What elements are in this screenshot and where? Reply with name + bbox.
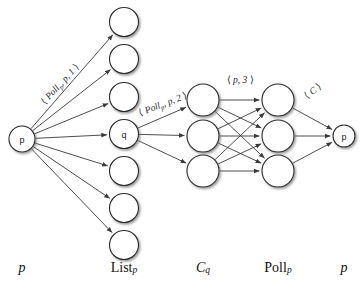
graph-svg: pqp ⟨ Pollp, p, 1 ⟩⟨ Pollp, p, 2 ⟩⟨ p, 3… xyxy=(0,0,363,286)
column-label-col-list-p: Listp xyxy=(111,260,138,276)
node-list-q[interactable]: q xyxy=(110,120,139,149)
edge-label-poll-p-2: ⟨ Pollp, p, 2 ⟩ xyxy=(137,90,189,118)
nodes-layer: pqp xyxy=(9,8,355,260)
node-cq-2[interactable] xyxy=(187,120,219,152)
edge-p-to-list-7 xyxy=(31,149,112,233)
edge-q-to-cq-2 xyxy=(139,134,184,135)
edge-q-to-cq-3 xyxy=(138,140,187,163)
edge-p-to-list-1 xyxy=(31,35,113,129)
node-list-7-circle[interactable] xyxy=(110,231,139,260)
diagram-canvas: pqp ⟨ Pollp, p, 1 ⟩⟨ Pollp, p, 2 ⟩⟨ p, 3… xyxy=(0,0,363,286)
column-label-col-p-left: p xyxy=(18,260,26,275)
edge-label-p-3: ⟨ p, 3 ⟩ xyxy=(227,75,254,85)
node-cq-2-circle[interactable] xyxy=(187,120,219,152)
column-label-col-p-right: p xyxy=(340,260,348,275)
node-pollp-3[interactable] xyxy=(262,155,294,187)
node-pollp-3-circle[interactable] xyxy=(262,155,294,187)
node-list-2-circle[interactable] xyxy=(110,45,139,74)
node-p-sink[interactable]: p xyxy=(333,125,355,147)
node-list-6[interactable] xyxy=(110,194,139,223)
edge-cq1-to-pollp2 xyxy=(218,107,261,128)
node-list-2[interactable] xyxy=(110,45,139,74)
node-cq-1[interactable] xyxy=(187,84,219,116)
edge-cq2-to-pollp3 xyxy=(218,143,261,163)
node-cq-3-circle[interactable] xyxy=(187,155,219,187)
node-p-source[interactable]: p xyxy=(9,126,35,152)
node-pollp-1-circle[interactable] xyxy=(262,84,294,116)
edge-label-c: ⟨ C ⟩ xyxy=(302,81,323,100)
edge-pollp1-to-p xyxy=(292,108,332,130)
node-cq-1-circle[interactable] xyxy=(187,84,219,116)
edge-cq2-to-pollp1 xyxy=(218,108,261,129)
node-list-3-circle[interactable] xyxy=(110,83,139,112)
edge-label-poll-p-1: ⟨ Pollp, p, 1 ⟩ xyxy=(39,62,82,107)
edge-pollp3-to-p xyxy=(293,142,332,163)
node-pollp-2-circle[interactable] xyxy=(262,120,294,152)
edge-p-to-list-5 xyxy=(35,143,108,166)
node-pollp-1[interactable] xyxy=(262,84,294,116)
node-list-1-circle[interactable] xyxy=(110,8,139,37)
node-pollp-2[interactable] xyxy=(262,120,294,152)
node-list-q-label: q xyxy=(121,130,126,140)
node-p-sink-label: p xyxy=(341,132,346,142)
column-labels-layer: pListpCqPollpp xyxy=(18,260,348,276)
node-list-6-circle[interactable] xyxy=(110,194,139,223)
edge-p-to-list-3 xyxy=(34,104,108,134)
node-p-source-label: p xyxy=(19,135,24,145)
node-list-5-circle[interactable] xyxy=(110,157,139,186)
node-list-5[interactable] xyxy=(110,157,139,186)
edge-cq3-to-pollp2 xyxy=(218,144,261,164)
edge-p-to-list-q xyxy=(35,135,106,139)
node-list-1[interactable] xyxy=(110,8,139,37)
node-cq-3[interactable] xyxy=(187,155,219,187)
node-list-3[interactable] xyxy=(110,83,139,112)
column-label-col-cq: Cq xyxy=(196,260,210,276)
node-list-7[interactable] xyxy=(110,231,139,260)
column-label-col-poll-p: Pollp xyxy=(264,260,292,276)
